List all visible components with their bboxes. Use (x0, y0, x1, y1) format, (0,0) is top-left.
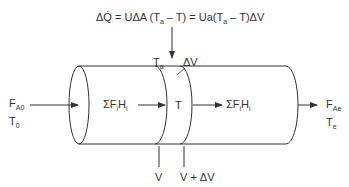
outlet-temperature-label: Te (326, 116, 337, 130)
slice-boundary-v-plus-dv (180, 66, 192, 144)
pfr-energy-balance-diagram: ΔQ̇ = UΔA (Ta – T) = Ua(Ta – T)ΔV Ta ΔV … (0, 0, 349, 187)
delta-volume-leader-line (177, 68, 185, 75)
outlet-flow-label: FAe (326, 98, 341, 112)
slice-temperature-label: T (175, 99, 182, 111)
enthalpy-out-label: ΣFiHi (226, 98, 251, 112)
inlet-flow-label: FA0 (9, 97, 24, 111)
inlet-temperature-label: T0 (9, 115, 20, 129)
heat-balance-equation: ΔQ̇ = UΔA (Ta – T) = Ua(Ta – T)ΔV (96, 11, 265, 25)
cylinder-outlet-face (286, 66, 298, 144)
enthalpy-in-label: ΣFiHi (103, 98, 128, 112)
volume-start-label: V (155, 171, 163, 183)
volume-end-label: V + ΔV (180, 171, 215, 183)
